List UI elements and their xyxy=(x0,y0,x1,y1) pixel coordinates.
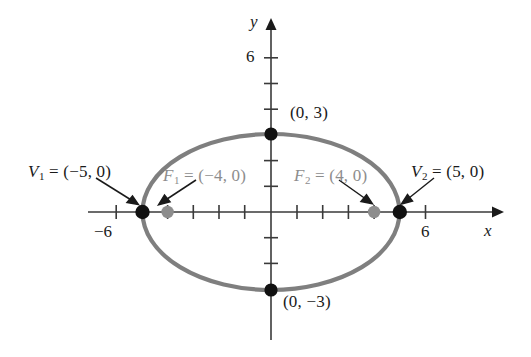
vertex-v2-label: V2 = (5, 0) xyxy=(411,162,484,182)
covertex-top-label: (0, 3) xyxy=(290,103,328,123)
x-axis-label: x xyxy=(484,221,492,241)
focus-f2-label: F2 = (4, 0) xyxy=(294,166,367,186)
covertex-top-dot xyxy=(264,127,277,140)
x-tick-label-negative-6: −6 xyxy=(94,222,112,242)
y-tick-label-6: 6 xyxy=(246,47,255,67)
v1-leader-arrowhead xyxy=(127,196,139,205)
f1-leader-arrowhead xyxy=(159,195,171,205)
vertex-v1-coords: = (−5, 0) xyxy=(45,162,112,181)
ellipse-figure: y x 6 −6 6 V1 = (−5, 0) F1 = (−4, 0) F2 … xyxy=(0,0,531,357)
covertex-bottom-label: (0, −3) xyxy=(283,292,331,312)
focus-f2-dot xyxy=(368,206,380,218)
x-tick-label-6: 6 xyxy=(421,222,430,242)
focus-f1-dot xyxy=(161,206,173,218)
focus-f2-coords: = (4, 0) xyxy=(311,166,368,185)
y-axis-arrowhead xyxy=(266,18,277,30)
vertex-v2-dot xyxy=(393,205,407,219)
vertex-v1-dot xyxy=(135,205,149,219)
covertex-bottom-dot xyxy=(264,283,277,296)
vertex-v2-symbol: V xyxy=(411,162,422,181)
vertex-v1-label: V1 = (−5, 0) xyxy=(28,162,111,182)
focus-f1-label: F1 = (−4, 0) xyxy=(163,166,246,186)
vertex-v1-symbol: V xyxy=(28,162,39,181)
focus-f1-symbol: F xyxy=(163,166,174,185)
y-axis-label: y xyxy=(250,12,258,32)
x-axis-arrowhead xyxy=(492,207,504,218)
focus-f2-symbol: F xyxy=(294,166,305,185)
focus-f1-coords: = (−4, 0) xyxy=(180,166,247,185)
vertex-v2-coords: = (5, 0) xyxy=(428,162,485,181)
